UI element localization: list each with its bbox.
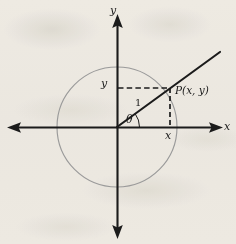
- point-p-label: P(x, y): [175, 85, 209, 96]
- x-axis-label: x: [224, 121, 230, 132]
- radius-length-label: 1: [135, 98, 141, 108]
- y-axis-label: y: [110, 5, 116, 16]
- theta-arc: [135, 114, 139, 127]
- x-axis: [7, 122, 223, 133]
- abscissa-label: x: [165, 130, 171, 141]
- ordinate-label: y: [101, 78, 107, 89]
- unit-circle-figure: y x y x 1 θ P(x, y): [0, 0, 236, 244]
- theta-angle-label: θ: [126, 114, 133, 125]
- unit-circle-diagram: [0, 0, 236, 244]
